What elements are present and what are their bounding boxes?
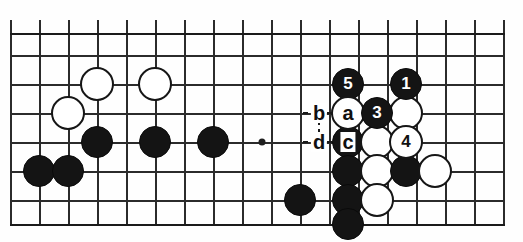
stone-black[interactable] bbox=[23, 155, 55, 187]
stone-white[interactable] bbox=[360, 183, 394, 217]
move-stone-4[interactable]: 4 bbox=[389, 125, 423, 159]
grid-line-vertical bbox=[503, 20, 505, 224]
grid-line-vertical bbox=[184, 20, 186, 224]
go-board: 5 1 2 3 4 b a d c bbox=[0, 0, 523, 242]
grid-line-horizontal bbox=[10, 200, 505, 202]
grid-line-vertical bbox=[445, 20, 447, 224]
point-marker-b[interactable]: b bbox=[311, 103, 327, 123]
point-marker-c[interactable]: c bbox=[340, 132, 355, 152]
move-stone-3[interactable]: 3 bbox=[361, 97, 393, 129]
grid-line-vertical bbox=[126, 20, 128, 224]
grid-line-vertical bbox=[242, 20, 244, 224]
stone-black[interactable] bbox=[332, 208, 364, 240]
move-number-label: 4 bbox=[401, 133, 410, 150]
stone-white[interactable] bbox=[418, 154, 452, 188]
point-marker-a[interactable]: a bbox=[340, 103, 355, 123]
grid-line-vertical bbox=[39, 20, 41, 224]
grid-line-vertical bbox=[155, 20, 157, 224]
stone-black[interactable] bbox=[52, 155, 84, 187]
stone-black[interactable] bbox=[197, 126, 229, 158]
go-diagram: 5 1 2 3 4 b a d c bbox=[0, 0, 523, 242]
stone-black[interactable] bbox=[139, 126, 171, 158]
stone-black[interactable] bbox=[284, 184, 316, 216]
grid-line-vertical bbox=[10, 20, 12, 224]
grid-line-horizontal bbox=[10, 224, 505, 226]
grid-line-vertical bbox=[474, 20, 476, 224]
move-number-label: 5 bbox=[343, 75, 352, 92]
grid-line-vertical bbox=[97, 20, 99, 224]
move-number-label: 1 bbox=[401, 75, 410, 92]
move-stone-1[interactable]: 1 bbox=[390, 68, 422, 100]
grid-line-horizontal bbox=[10, 55, 505, 57]
move-number-label: 3 bbox=[372, 104, 381, 121]
grid-line-vertical bbox=[329, 20, 331, 224]
grid-line-horizontal bbox=[10, 33, 505, 35]
grid-line-vertical bbox=[213, 20, 215, 224]
stone-white[interactable] bbox=[138, 67, 172, 101]
stone-white[interactable] bbox=[80, 67, 114, 101]
point-marker-d[interactable]: d bbox=[311, 132, 327, 152]
grid-line-vertical bbox=[271, 20, 273, 224]
star-point bbox=[259, 139, 266, 146]
stone-white[interactable] bbox=[51, 96, 85, 130]
stone-black[interactable] bbox=[81, 126, 113, 158]
